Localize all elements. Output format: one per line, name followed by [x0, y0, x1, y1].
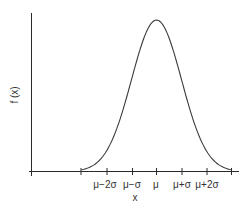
tick-label-mu-plus-sigma: μ+σ [173, 179, 192, 190]
x-axis-label: x [133, 192, 138, 203]
tick-label-mu-plus-2sigma: μ+2σ [195, 179, 219, 190]
normal-distribution-chart: μ−2σ μ−σ μ μ+σ μ+2σ x f (x) [0, 0, 249, 213]
density-curve [82, 20, 232, 170]
tick-label-mu-minus-sigma: μ−σ [123, 179, 142, 190]
tick-label-mu: μ [153, 179, 159, 190]
y-axis-label: f (x) [9, 86, 20, 103]
tick-label-mu-minus-2sigma: μ−2σ [93, 179, 117, 190]
